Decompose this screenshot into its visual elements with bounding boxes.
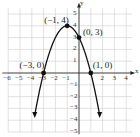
point-label: (−1, 4) xyxy=(44,16,69,25)
x-tick-label: −4 xyxy=(27,75,34,82)
point-label: (−3, 0) xyxy=(20,61,45,70)
y-tick-label: −4 xyxy=(70,116,77,123)
curve-arrow-right-icon xyxy=(97,112,102,118)
x-tick-label: 2 xyxy=(101,75,105,82)
y-tick-label: 2 xyxy=(73,45,77,52)
x-tick-label: −3 xyxy=(39,75,46,82)
y-axis-label: y xyxy=(80,0,84,7)
x-tick-label: −5 xyxy=(15,75,22,82)
y-tick-label: 5 xyxy=(73,10,77,17)
y-tick-label: −5 xyxy=(70,128,77,135)
y-tick-label: 1 xyxy=(73,57,77,64)
y-tick-label: 4 xyxy=(73,22,77,29)
x-axis-arrow-icon xyxy=(130,71,134,75)
x-axis-label: x xyxy=(135,68,139,75)
data-point xyxy=(77,35,82,40)
data-point xyxy=(88,71,93,76)
x-tick-label: −6 xyxy=(3,75,10,82)
x-tick-label: −1 xyxy=(62,75,69,82)
x-tick-label: 4 xyxy=(124,75,128,82)
y-tick-label: −3 xyxy=(70,104,77,111)
point-label: (0, 3) xyxy=(83,28,103,37)
y-tick-label: −2 xyxy=(70,93,77,100)
x-tick-label: 3 xyxy=(112,75,116,82)
curve-arrow-left-icon xyxy=(32,112,37,118)
y-tick-label: 3 xyxy=(73,34,77,41)
point-label: (1, 0) xyxy=(93,61,113,70)
y-tick-label: −1 xyxy=(70,81,77,88)
x-tick-label: −2 xyxy=(50,75,57,82)
